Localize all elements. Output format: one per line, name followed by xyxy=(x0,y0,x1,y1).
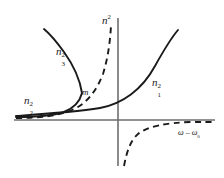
plot-canvas xyxy=(0,0,224,178)
curve-label-n1: n21 xyxy=(152,77,158,88)
curve-label-n3-exponent: 2 xyxy=(62,52,66,59)
curve-n1-squared xyxy=(16,30,178,116)
curve-label-n2-exponent: 2 xyxy=(30,101,34,108)
curve-label-n2: n22 xyxy=(24,95,30,106)
horizontal-axis-label: ω – ω0 xyxy=(178,129,200,140)
dispersion-figure: n2 n23 n22 n21 m ω – ω0 xyxy=(0,0,224,178)
horizontal-axis-label-minus: – xyxy=(184,128,192,137)
curve-dashed-lower xyxy=(124,122,214,166)
curve-label-n2-subscript: 2 xyxy=(30,110,34,117)
curve-label-n3-subscript: 3 xyxy=(62,61,66,68)
vertical-axis-label-exponent: 2 xyxy=(108,13,111,20)
curve-label-n1-subscript: 1 xyxy=(158,92,162,99)
vertical-axis-label: n2 xyxy=(102,14,111,26)
curve-label-n1-exponent: 2 xyxy=(158,83,162,90)
turning-point-label-m: m xyxy=(82,88,89,97)
curve-label-n3: n23 xyxy=(56,46,62,57)
horizontal-axis-label-omega0-subscript: 0 xyxy=(197,134,199,139)
